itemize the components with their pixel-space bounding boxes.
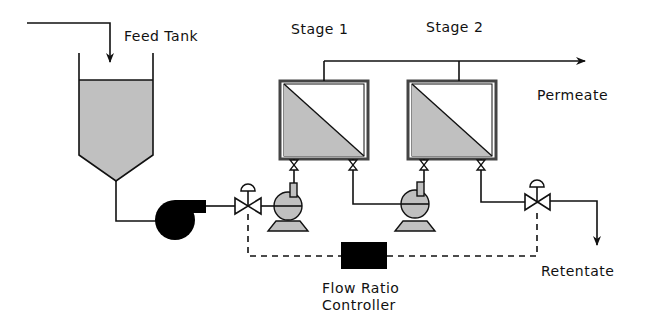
stage2-to-valve2-line — [481, 173, 525, 202]
membrane-stage-1 — [280, 81, 368, 159]
feed-pump-icon — [155, 200, 206, 240]
permeate-label: Permeate — [537, 87, 608, 103]
stage-1-label: Stage 1 — [291, 21, 348, 37]
controller-label-line1: Flow Ratio — [322, 280, 399, 296]
stage-1-outlet-valve-icon — [349, 159, 357, 173]
stage-2-outlet-valve-icon — [477, 159, 485, 173]
tank-outlet-line — [116, 181, 156, 221]
retentate-line — [550, 201, 597, 245]
controller-label-line2: Controller — [322, 297, 396, 313]
pump-2-icon — [395, 182, 435, 231]
permeate-line — [324, 61, 585, 81]
stage-1-inlet-valve-icon — [290, 159, 298, 173]
feed-inlet-line — [27, 23, 110, 62]
retentate-label: Retentate — [541, 263, 614, 279]
stage-2-inlet-valve-icon — [420, 159, 428, 182]
membrane-stage-2 — [408, 81, 496, 159]
pump-1-icon — [268, 173, 308, 231]
feed-tank — [79, 53, 153, 181]
stage-2-label: Stage 2 — [426, 19, 483, 35]
process-flow-diagram: Feed Tank Stage 1 Stage 2 — [0, 0, 646, 331]
flow-ratio-controller-icon — [341, 242, 387, 269]
control-valve-2-icon — [525, 180, 550, 210]
feed-tank-label: Feed Tank — [124, 28, 199, 44]
control-valve-1-icon — [235, 184, 261, 214]
